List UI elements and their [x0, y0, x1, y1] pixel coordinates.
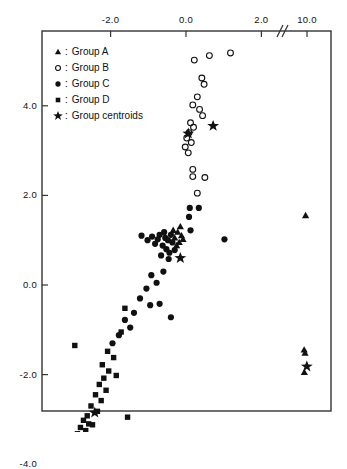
y-tick-label: -4.0	[0, 458, 37, 469]
legend-item-group-d: :Group D	[52, 92, 143, 108]
x-tick-label: 0.0	[162, 14, 210, 25]
x-tick-label: 10.0	[283, 14, 331, 25]
legend-item-group-b: :Group B	[52, 60, 143, 76]
legend-separator: :	[65, 94, 68, 106]
x-tick-label: -2.0	[87, 14, 135, 25]
square-icon	[52, 94, 64, 106]
y-tick-label: 2.0	[0, 189, 37, 200]
legend-label: Group C	[72, 78, 110, 90]
legend-separator: :	[65, 62, 68, 74]
y-tick-label: 0.0	[0, 279, 37, 290]
y-tick-label: 4.0	[0, 100, 37, 111]
legend-separator: :	[65, 46, 68, 58]
legend-label: Group centroids	[72, 110, 143, 122]
triangle-icon	[52, 46, 64, 58]
legend: :Group A:Group B:Group C:Group D:Group c…	[52, 44, 143, 124]
series-group-d	[72, 306, 130, 432]
series-group-c	[109, 205, 227, 346]
y-tick-label: -2.0	[0, 369, 37, 380]
circle-open-icon	[52, 62, 64, 74]
legend-item-group-a: :Group A	[52, 44, 143, 60]
series-group-b	[182, 50, 233, 196]
x-tick-label: 2.0	[237, 14, 285, 25]
legend-separator: :	[65, 110, 68, 122]
series-group-centroids	[89, 120, 313, 418]
legend-item-group-centroids: :Group centroids	[52, 108, 143, 124]
series-group-a	[170, 212, 313, 432]
legend-label: Group B	[72, 62, 109, 74]
legend-separator: :	[65, 78, 68, 90]
star-icon	[52, 110, 64, 122]
legend-label: Group A	[72, 46, 109, 58]
legend-item-group-c: :Group C	[52, 76, 143, 92]
legend-label: Group D	[72, 94, 110, 106]
circle-filled-icon	[52, 78, 64, 90]
